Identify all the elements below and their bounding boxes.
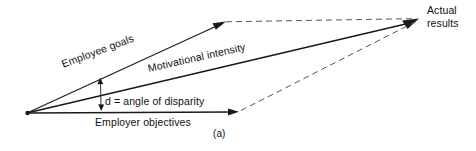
actual-results-label-line2: results xyxy=(427,17,459,30)
angle-of-disparity-label: d = angle of disparity xyxy=(105,95,204,107)
lower-dashed-closure-line xyxy=(241,22,416,111)
angle-of-disparity-arrowhead-bottom xyxy=(98,104,104,111)
upper-dashed-closure-line xyxy=(226,19,416,22)
actual-results-label: Actual results xyxy=(427,4,459,31)
employer-objectives-label: Employer objectives xyxy=(95,116,191,128)
employer-objectives-arrowhead xyxy=(228,108,239,115)
vector-diagram-figure: Employee goals Motivational intensity d … xyxy=(0,0,476,151)
motivational-intensity-vector-line xyxy=(27,23,412,114)
actual-results-label-line1: Actual xyxy=(427,4,459,17)
employee-goals-arrowhead xyxy=(213,22,227,30)
diagram-canvas xyxy=(0,0,476,151)
employer-objectives-vector-line xyxy=(27,112,232,113)
figure-caption: (a) xyxy=(213,128,226,140)
